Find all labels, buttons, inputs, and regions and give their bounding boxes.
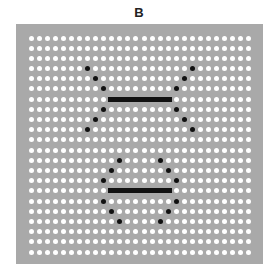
lattice-site: [93, 168, 98, 173]
lattice-site: [117, 46, 122, 51]
lattice-site: [214, 158, 219, 163]
lattice-site: [29, 250, 34, 255]
lattice-site: [69, 56, 74, 61]
lattice-site: [190, 158, 195, 163]
lattice-site: [77, 76, 82, 81]
lattice-site: [45, 239, 50, 244]
lattice-site: [93, 219, 98, 224]
lattice-site: [133, 229, 138, 234]
lattice-site: [109, 117, 114, 122]
lattice-site: [133, 158, 138, 163]
lattice-site: [117, 209, 122, 214]
lattice-site: [61, 107, 66, 112]
lattice-site: [198, 137, 203, 142]
lattice-site: [61, 219, 66, 224]
lattice-site: [142, 199, 147, 204]
lattice-site: [117, 250, 122, 255]
lattice-site: [182, 86, 187, 91]
highlighted-site: [158, 158, 163, 163]
lattice-site: [238, 168, 243, 173]
lattice-site: [77, 250, 82, 255]
lattice-site: [182, 137, 187, 142]
lattice-site: [158, 199, 163, 204]
lattice-site: [166, 76, 171, 81]
lattice-site: [133, 178, 138, 183]
lattice-site: [190, 97, 195, 102]
lattice-site: [93, 199, 98, 204]
lattice-site: [222, 229, 227, 234]
lattice-site: [69, 188, 74, 193]
lattice-site: [238, 148, 243, 153]
lattice-site: [101, 56, 106, 61]
lattice-site: [230, 178, 235, 183]
lattice-site: [174, 209, 179, 214]
lattice-site: [37, 199, 42, 204]
lattice-site: [198, 209, 203, 214]
lattice-site: [117, 168, 122, 173]
lattice-site: [109, 199, 114, 204]
lattice-site: [238, 66, 243, 71]
lattice-site: [61, 36, 66, 41]
highlighted-site: [85, 66, 90, 71]
lattice-site: [109, 148, 114, 153]
lattice-site: [93, 56, 98, 61]
lattice-site: [230, 188, 235, 193]
lattice-site: [158, 148, 163, 153]
lattice-site: [117, 199, 122, 204]
lattice-site: [214, 229, 219, 234]
lattice-site: [37, 178, 42, 183]
lattice-site: [222, 127, 227, 132]
lattice-site: [238, 46, 243, 51]
lattice-site: [53, 209, 58, 214]
lattice-site: [69, 76, 74, 81]
lattice-site: [246, 46, 251, 51]
lattice-site: [45, 229, 50, 234]
lattice-site: [182, 188, 187, 193]
lattice-site: [85, 76, 90, 81]
lattice-site: [182, 250, 187, 255]
lattice-site: [45, 250, 50, 255]
highlighted-site: [101, 86, 106, 91]
lattice-site: [150, 250, 155, 255]
lattice-site: [101, 250, 106, 255]
lattice-site: [158, 239, 163, 244]
lattice-site: [206, 209, 211, 214]
lattice-site: [85, 137, 90, 142]
lattice-site: [174, 66, 179, 71]
lattice-site: [125, 107, 130, 112]
lattice-site: [101, 117, 106, 122]
lattice-site: [222, 86, 227, 91]
lattice-site: [150, 199, 155, 204]
lattice-site: [142, 127, 147, 132]
lattice-site: [230, 209, 235, 214]
lattice-site: [29, 188, 34, 193]
lattice-site: [61, 250, 66, 255]
lattice-site: [101, 127, 106, 132]
lattice-site: [45, 46, 50, 51]
lattice-site: [133, 76, 138, 81]
lattice-site: [222, 188, 227, 193]
lattice-site: [53, 239, 58, 244]
lattice-site: [117, 178, 122, 183]
lattice-site: [214, 188, 219, 193]
figure-title: B: [0, 5, 276, 20]
lattice-site: [246, 188, 251, 193]
lattice-site: [133, 117, 138, 122]
lattice-site: [53, 56, 58, 61]
lattice-site: [117, 117, 122, 122]
lattice-site: [133, 137, 138, 142]
lattice-site: [93, 229, 98, 234]
lattice-site: [182, 56, 187, 61]
lattice-site: [29, 76, 34, 81]
lattice-site: [238, 127, 243, 132]
lattice-site: [125, 46, 130, 51]
lattice-site: [246, 199, 251, 204]
lattice-site: [198, 117, 203, 122]
lattice-site: [69, 127, 74, 132]
lattice-site: [109, 56, 114, 61]
lattice-site: [246, 127, 251, 132]
lattice-site: [158, 250, 163, 255]
highlighted-site: [117, 219, 122, 224]
highlighted-site: [182, 117, 187, 122]
lattice-site: [174, 148, 179, 153]
